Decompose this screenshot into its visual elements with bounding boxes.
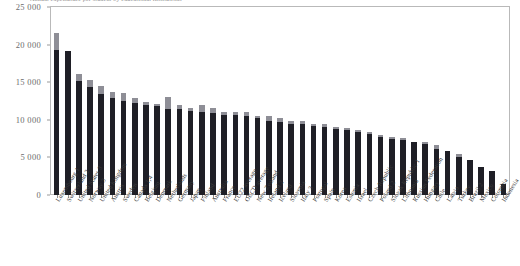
bar-segment-base [233, 115, 239, 195]
bar-segment-top [54, 33, 60, 50]
y-axis-tick-label: 20 000 [16, 40, 41, 50]
bar [333, 127, 339, 195]
bar [121, 93, 127, 195]
bar-segment-top [199, 105, 205, 112]
y-axis: 25 00020 00015 00010 0005 0000 [0, 0, 50, 200]
bar-segment-top [98, 86, 104, 94]
bar-segment-top [87, 80, 93, 87]
y-axis-tick-mark [47, 119, 50, 120]
bar-segment-base [199, 112, 205, 195]
bar-segment-base [333, 129, 339, 195]
bar [132, 98, 138, 195]
bar-segment-base [344, 130, 350, 195]
y-axis-tick-label: 10 000 [16, 115, 41, 125]
bar-segment-top [165, 97, 171, 109]
y-axis-tick-label: 5 000 [20, 152, 41, 162]
bar [311, 124, 317, 195]
bar [199, 105, 205, 195]
y-axis-tick-mark [47, 82, 50, 83]
bar-segment-top [121, 93, 127, 101]
bar-segment-base [54, 50, 60, 195]
bar-segment-base [367, 134, 373, 195]
y-axis-tick-mark [47, 7, 50, 8]
y-axis-tick-mark [47, 44, 50, 45]
bar-segment-base [311, 126, 317, 195]
y-axis-tick-mark [47, 195, 50, 196]
y-axis-tick-label: 15 000 [16, 77, 41, 87]
bar-segment-base [445, 151, 451, 195]
bar [54, 33, 60, 195]
chart-title: Annual expenditure per student by educat… [30, 0, 182, 3]
bar [344, 128, 350, 195]
bar-segment-top [76, 74, 82, 81]
x-axis-labels: Luxembourg 1Switzerland 2United States 3… [0, 199, 518, 266]
bar [233, 112, 239, 195]
y-axis-tick-label: 25 000 [16, 2, 41, 12]
bar [367, 132, 373, 195]
bar [445, 151, 451, 195]
y-axis-tick-mark [47, 157, 50, 158]
bar-segment-base [121, 101, 127, 195]
